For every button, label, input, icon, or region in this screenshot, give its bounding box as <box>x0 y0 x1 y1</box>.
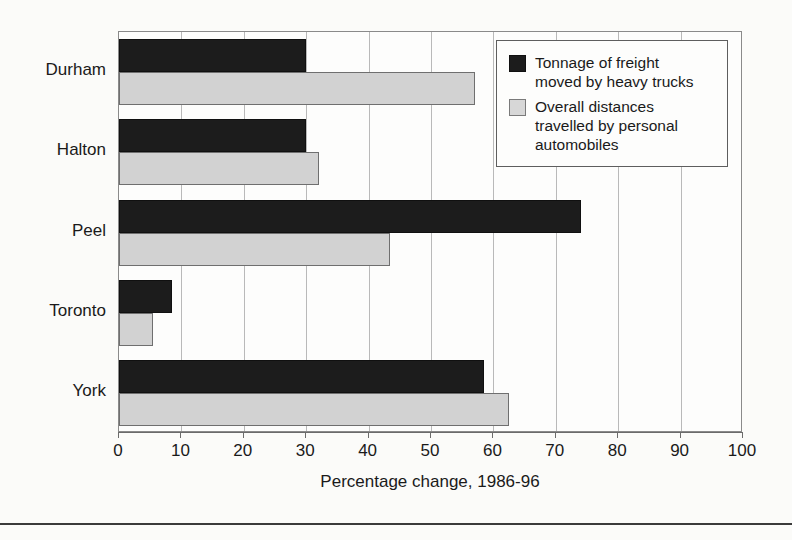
x-axis-tick-label: 70 <box>525 441 585 461</box>
x-axis-tick <box>430 432 431 438</box>
bar-durham-series2 <box>119 72 475 105</box>
light-square-swatch-icon <box>509 99 526 116</box>
x-axis-tick-label: 100 <box>712 441 772 461</box>
dark-square-swatch-icon <box>509 55 526 72</box>
legend-item-label: Overall distances travelled by personal … <box>535 97 678 154</box>
bar-durham-series1 <box>119 39 306 72</box>
chart-figure: DurhamHaltonPeelTorontoYork 010203040506… <box>0 0 792 540</box>
y-axis-label-toronto: Toronto <box>0 301 106 321</box>
bar-peel-series2 <box>119 233 390 266</box>
legend-item: Overall distances travelled by personal … <box>509 97 717 154</box>
chart-legend: Tonnage of freight moved by heavy trucks… <box>496 40 728 167</box>
x-axis-tick <box>555 432 556 438</box>
x-axis-title: Percentage change, 1986-96 <box>118 472 742 492</box>
x-axis-tick-label: 30 <box>275 441 335 461</box>
x-axis-tick-label: 50 <box>400 441 460 461</box>
bar-halton-series1 <box>119 119 306 152</box>
x-axis-tick <box>617 432 618 438</box>
legend-item: Tonnage of freight moved by heavy trucks <box>509 53 717 91</box>
y-axis-label-durham: Durham <box>0 60 106 80</box>
x-axis-tick <box>680 432 681 438</box>
bottom-divider <box>0 523 792 525</box>
x-axis-tick-label: 10 <box>150 441 210 461</box>
x-axis-tick-label: 0 <box>88 441 148 461</box>
bar-york-series2 <box>119 393 509 426</box>
x-axis-tick-labels: 0102030405060708090100 <box>118 432 742 462</box>
x-axis-tick <box>243 432 244 438</box>
x-axis-tick <box>118 432 119 438</box>
x-axis-tick <box>180 432 181 438</box>
x-axis-tick-label: 90 <box>650 441 710 461</box>
bar-peel-series1 <box>119 200 581 233</box>
x-axis-tick <box>742 432 743 438</box>
x-axis-tick <box>305 432 306 438</box>
y-axis-label-york: York <box>0 381 106 401</box>
y-axis-label-halton: Halton <box>0 140 106 160</box>
bar-york-series1 <box>119 360 484 393</box>
y-axis-label-peel: Peel <box>0 221 106 241</box>
x-axis-tick <box>368 432 369 438</box>
x-axis-tick-label: 40 <box>338 441 398 461</box>
bar-halton-series2 <box>119 152 319 185</box>
x-axis-tick-label: 60 <box>462 441 522 461</box>
x-axis-tick-label: 80 <box>587 441 647 461</box>
bar-toronto-series2 <box>119 313 153 346</box>
legend-item-label: Tonnage of freight moved by heavy trucks <box>535 53 694 91</box>
x-axis-tick-label: 20 <box>213 441 273 461</box>
x-axis-tick <box>492 432 493 438</box>
bar-toronto-series1 <box>119 280 172 313</box>
